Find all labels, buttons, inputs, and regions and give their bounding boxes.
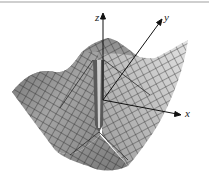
z-axis-label: z: [95, 12, 99, 23]
surface-plot-figure: z y x: [0, 0, 209, 182]
y-axis-arrowhead: [157, 19, 163, 26]
y-axis-label: y: [164, 12, 169, 23]
cropped-caption-remnant: [0, 0, 209, 4]
surface-left-wing: [12, 52, 100, 154]
x-axis-arrowhead: [175, 112, 182, 117]
x-axis-label: x: [185, 108, 190, 119]
z-axis-arrowhead: [101, 13, 106, 19]
surface-plot-svg: [0, 0, 209, 182]
